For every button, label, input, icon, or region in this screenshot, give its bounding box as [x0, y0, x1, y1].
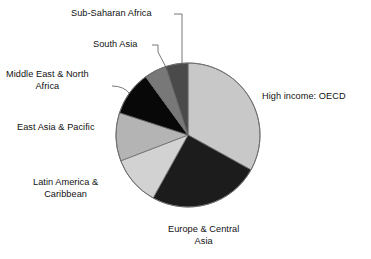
- pie-label-middle-east-north-africa: Middle East & North Africa: [6, 69, 89, 92]
- pie-label-east-asia-pacific-line1: East Asia & Pacific: [17, 122, 95, 134]
- pie-label-latin-america-caribbean: Latin America & Caribbean: [33, 177, 98, 200]
- pie-label-east-asia-pacific: East Asia & Pacific: [17, 122, 95, 134]
- pie-label-europe-central-asia-line2: Asia: [168, 236, 239, 248]
- pie-label-sub-saharan-africa-line1: Sub-Saharan Africa: [71, 8, 152, 20]
- pie-label-europe-central-asia: Europe & Central Asia: [168, 224, 239, 247]
- pie-label-middle-east-north-africa-line2: Africa: [6, 81, 89, 93]
- pie-label-middle-east-north-africa-line1: Middle East & North: [6, 69, 89, 81]
- pie-label-europe-central-asia-line1: Europe & Central: [168, 224, 239, 236]
- pie-label-south-asia-line1: South Asia: [93, 39, 137, 51]
- pie-label-high-income-oecd-line1: High income: OECD: [262, 91, 346, 103]
- pie-label-south-asia: South Asia: [93, 39, 137, 51]
- pie-label-latin-america-caribbean-line1: Latin America &: [33, 177, 98, 189]
- leader-line-middle-east-north-africa: [112, 86, 130, 94]
- leader-line-south-asia: [152, 45, 168, 71]
- pie-slices: [116, 63, 260, 207]
- pie-label-sub-saharan-africa: Sub-Saharan Africa: [71, 8, 152, 20]
- pie-label-high-income-oecd: High income: OECD: [262, 91, 346, 103]
- pie-label-latin-america-caribbean-line2: Caribbean: [33, 189, 98, 201]
- pie-chart-figure: Sub-Saharan Africa South Asia Middle Eas…: [0, 0, 371, 259]
- leader-line-sub-saharan-africa: [174, 14, 182, 66]
